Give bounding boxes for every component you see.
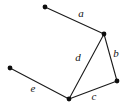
edge-d-line	[69, 34, 104, 99]
vertex-bottom	[67, 97, 72, 102]
edge-label-a: a	[78, 7, 84, 19]
vertex-left	[8, 66, 13, 71]
geometry-figure: a b c d e	[0, 0, 127, 108]
edge-label-e: e	[31, 82, 36, 94]
edge-label-b: b	[113, 47, 119, 59]
edge-label-c: c	[92, 90, 97, 102]
edge-e-line	[10, 68, 69, 99]
vertex-top-left	[43, 5, 48, 10]
diagram-svg: a b c d e	[0, 0, 127, 108]
edge-a-line	[45, 7, 104, 34]
vertex-apex	[102, 32, 107, 37]
edge-label-d: d	[75, 51, 81, 63]
vertex-right	[115, 79, 120, 84]
